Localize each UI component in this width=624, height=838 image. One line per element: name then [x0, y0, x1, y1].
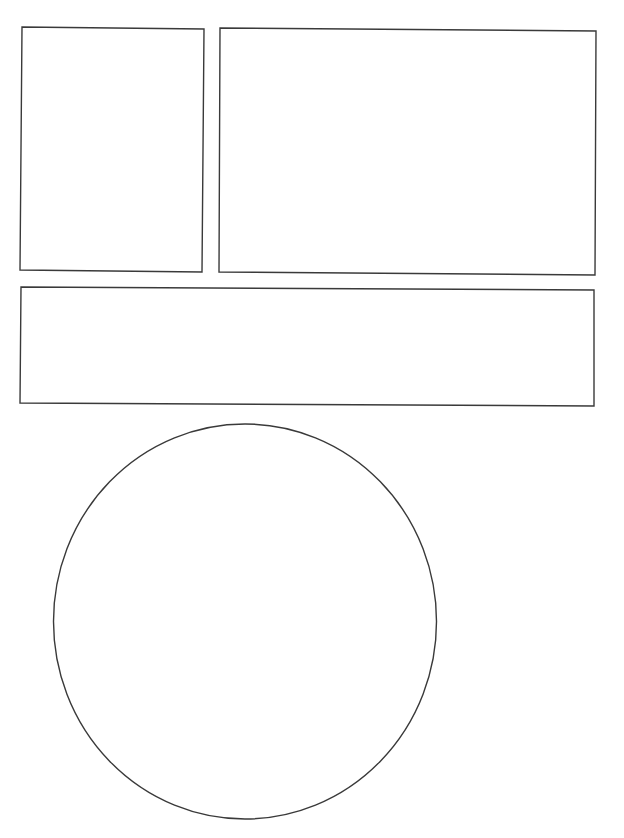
panel-layout-canvas [0, 0, 624, 838]
panel-top-right [219, 28, 596, 275]
panel-wide-middle [20, 287, 594, 406]
panel-circle [54, 424, 437, 819]
panel-top-left [20, 27, 204, 272]
